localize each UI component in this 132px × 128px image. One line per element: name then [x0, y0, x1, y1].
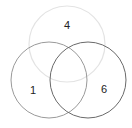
set-circle-left	[11, 42, 87, 118]
venn-diagram: 4 1 6	[0, 0, 132, 128]
set-circle-right	[50, 42, 126, 118]
set-label-top: 4	[64, 19, 70, 31]
set-circle-top	[29, 6, 105, 82]
set-label-right: 6	[101, 83, 107, 95]
set-label-left: 1	[30, 84, 36, 96]
